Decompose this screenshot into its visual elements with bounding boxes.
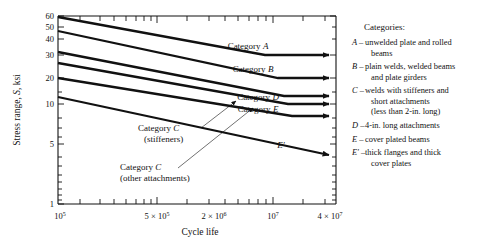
y-tick-label: 60 <box>46 11 55 21</box>
legend-item-a: A – unwelded plate and rolled beams <box>352 38 492 59</box>
x-tick-label-3: 2 × 106 <box>202 211 227 221</box>
top-axis-ticks <box>80 16 325 23</box>
y-tick-label: 40 <box>46 34 55 44</box>
legend-desc-c: welds with stiffeners and short attachme… <box>365 86 492 117</box>
legend-title: Categories: <box>364 22 492 32</box>
annotation-c-stiffeners-line2: (stiffeners) <box>144 134 183 144</box>
y-tick-label: 50 <box>46 22 55 32</box>
legend-key-e: E – <box>352 135 363 145</box>
annotation-c-other-line2: (other attachments) <box>120 173 190 183</box>
y-tick-label: 1 <box>50 199 54 209</box>
legend-item-c: C – welds with stiffeners and short atta… <box>352 86 492 117</box>
x-tick-label-5: 4 × 107 <box>318 211 343 221</box>
y-axis-title: Stress range, S, ksi <box>12 74 22 146</box>
curve-category-e-prime <box>58 97 329 155</box>
x-tick-label-2: 5 × 105 <box>145 211 170 221</box>
x-tick-labels: 105 5 × 105 2 × 106 107 4 × 107 <box>54 211 342 221</box>
y-axis-ticks <box>58 16 64 204</box>
y-tick-label: 10 <box>46 99 55 109</box>
legend-desc-e-prime: thick flanges and thick cover plates <box>365 148 492 169</box>
y-tick-label: 30 <box>46 50 55 60</box>
annotation-c-other: Category C (other attachments) <box>120 162 190 183</box>
x-tick-label-4: 107 <box>267 211 279 221</box>
annotation-c-stiffeners-line1: Category C <box>138 123 180 133</box>
label-category-a: Category A <box>228 41 269 51</box>
x-axis-ticks <box>80 197 325 204</box>
label-category-d: Category D <box>237 92 279 102</box>
annotation-c-stiffeners: Category C (stiffeners) <box>138 123 183 144</box>
legend-desc-e: cover plated beams <box>365 135 492 145</box>
legend-desc-d: 4-in. long attachments <box>365 121 492 131</box>
y-tick-label: 5 <box>50 139 54 149</box>
label-category-e-prime: E' <box>276 140 285 150</box>
legend-desc-b: plain welds, welded beams and plate gird… <box>365 62 492 83</box>
annotation-c-other-line1: Category C <box>120 162 162 172</box>
sn-curves <box>58 17 329 155</box>
curve-category-c <box>58 52 329 96</box>
legend-item-e: E – cover plated beams <box>352 135 492 145</box>
legend-item-b: B – plain welds, welded beams and plate … <box>352 62 492 83</box>
legend-key-a: A – <box>352 38 363 48</box>
plot-frame <box>58 16 336 204</box>
curve-category-a <box>58 17 329 55</box>
right-axis-ticks <box>330 16 336 200</box>
legend-key-d: D – <box>352 121 364 131</box>
legend-item-e-prime: E' – thick flanges and thick cover plate… <box>352 148 492 169</box>
legend-item-d: D – 4-in. long attachments <box>352 121 492 131</box>
curve-labels: Category A Category B Category D Categor… <box>228 41 286 150</box>
label-category-b: Category B <box>233 64 274 74</box>
label-category-e: Category E <box>238 104 279 114</box>
x-axis-title: Cycle life <box>181 227 218 237</box>
y-tick-labels: 60 50 40 30 20 10 5 1 <box>46 11 55 209</box>
legend: Categories: A – unwelded plate and rolle… <box>352 22 492 173</box>
legend-desc-a: unwelded plate and rolled beams <box>365 38 492 59</box>
legend-key-c: C – <box>352 86 364 96</box>
x-tick-label-1: 105 <box>54 211 66 221</box>
y-tick-label: 20 <box>46 73 55 83</box>
legend-key-e-prime: E' – <box>352 148 365 158</box>
legend-key-b: B – <box>352 62 363 72</box>
